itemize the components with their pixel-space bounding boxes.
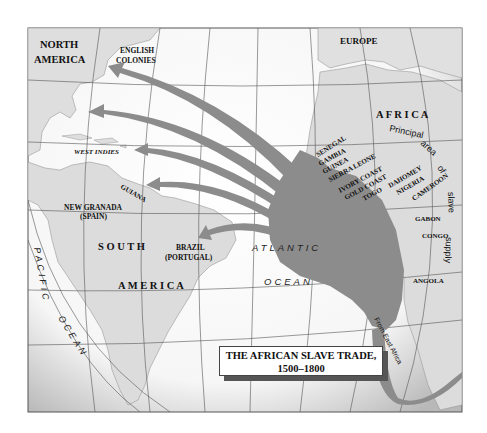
supply-label-slave: slave	[446, 192, 457, 213]
brazil-label-2: (PORTUGAL)	[165, 253, 213, 262]
africa-label: A F R I C A	[376, 109, 429, 120]
west-indies-label: WEST INDIES	[74, 148, 119, 156]
north-america-label-2: AMERICA	[34, 54, 86, 65]
map-date-range: 1500–1800	[220, 362, 382, 375]
brazil-label-1: BRAZIL	[176, 243, 205, 252]
supply-label-supply: supply	[443, 237, 454, 264]
coast-label-angola: ANGOLA	[413, 277, 444, 285]
atlantic-ocean-label: OCEAN	[264, 276, 313, 287]
english-colonies-label-1: ENGLISH	[120, 46, 154, 55]
south-america-label-2: A M E R I C A	[118, 280, 184, 291]
new-granada-label-1: NEW GRANADA	[64, 203, 123, 212]
south-america-label-1: S O U T H	[98, 241, 145, 252]
north-america-label-1: NORTH	[40, 39, 78, 50]
atlantic-label: ATLANTIC	[251, 242, 321, 253]
map-title-box: THE AFRICAN SLAVE TRADE, 1500–1800	[219, 346, 383, 376]
coast-label-gabon: GABON	[415, 215, 441, 223]
english-colonies-label-2: COLONIES	[116, 56, 156, 65]
new-granada-label-2: (SPAIN)	[80, 212, 107, 221]
map-title: THE AFRICAN SLAVE TRADE,	[220, 349, 382, 362]
europe-label: EUROPE	[340, 36, 378, 46]
